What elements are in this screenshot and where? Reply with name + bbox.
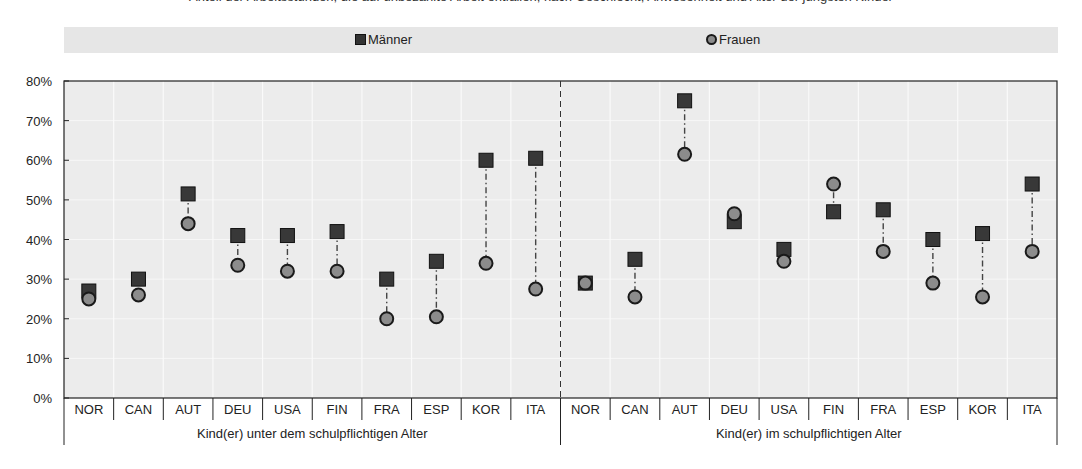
men-marker [529, 151, 543, 165]
group-label: Kind(er) unter dem schulpflichtigen Alte… [197, 426, 428, 441]
women-marker [628, 290, 641, 303]
men-marker [628, 252, 642, 266]
women-marker [480, 257, 493, 270]
x-category-label: KOR [968, 402, 996, 417]
women-marker [331, 265, 344, 278]
women-marker [529, 283, 542, 296]
women-marker [877, 245, 890, 258]
x-category-label: ESP [423, 402, 449, 417]
men-marker [926, 233, 940, 247]
men-marker [827, 205, 841, 219]
x-category-label: FIN [823, 402, 844, 417]
women-marker [231, 259, 244, 272]
women-marker [281, 265, 294, 278]
x-category-label: FRA [870, 402, 896, 417]
women-marker [827, 178, 840, 191]
x-category-label: NOR [74, 402, 103, 417]
men-marker [678, 94, 692, 108]
plot-area [64, 81, 1057, 398]
x-category-label: DEU [721, 402, 748, 417]
women-marker [926, 277, 939, 290]
x-category-label: USA [274, 402, 301, 417]
women-marker [182, 217, 195, 230]
men-marker [1025, 177, 1039, 191]
men-marker [876, 203, 890, 217]
x-category-label: CAN [621, 402, 648, 417]
men-marker [280, 229, 294, 243]
women-marker [976, 290, 989, 303]
x-category-label: ITA [526, 402, 546, 417]
x-category-label: AUT [672, 402, 698, 417]
y-tick-label: 50% [26, 193, 52, 208]
y-tick-label: 60% [26, 153, 52, 168]
men-marker [131, 272, 145, 286]
women-marker [1026, 245, 1039, 258]
women-marker [777, 255, 790, 268]
x-category-label: FRA [374, 402, 400, 417]
x-category-label: USA [771, 402, 798, 417]
men-marker [181, 187, 195, 201]
men-marker [380, 272, 394, 286]
women-marker [678, 148, 691, 161]
x-category-label: FIN [327, 402, 348, 417]
women-marker [132, 288, 145, 301]
y-tick-label: 70% [26, 114, 52, 129]
y-tick-label: 40% [26, 233, 52, 248]
x-category-label: NOR [571, 402, 600, 417]
y-tick-label: 30% [26, 272, 52, 287]
y-tick-label: 0% [33, 391, 52, 406]
y-tick-label: 80% [26, 74, 52, 89]
y-axis: 0%10%20%30%40%50%60%70%80% [26, 74, 69, 406]
x-category-label: ESP [920, 402, 946, 417]
women-marker [430, 310, 443, 323]
x-category-label: CAN [125, 402, 152, 417]
dumbbell-chart: 0%10%20%30%40%50%60%70%80% NORCANAUTDEUU… [0, 0, 1082, 469]
x-category-label: DEU [224, 402, 251, 417]
women-marker [82, 292, 95, 305]
men-marker [330, 225, 344, 239]
women-marker [579, 277, 592, 290]
group-label: Kind(er) im schulpflichtigen Alter [716, 426, 902, 441]
x-category-label: ITA [1023, 402, 1043, 417]
women-marker [380, 312, 393, 325]
y-tick-label: 20% [26, 312, 52, 327]
women-marker [728, 207, 741, 220]
men-marker [231, 229, 245, 243]
x-category-label: KOR [472, 402, 500, 417]
y-tick-label: 10% [26, 351, 52, 366]
men-marker [479, 153, 493, 167]
men-marker [429, 254, 443, 268]
men-marker [976, 227, 990, 241]
x-category-label: AUT [175, 402, 201, 417]
